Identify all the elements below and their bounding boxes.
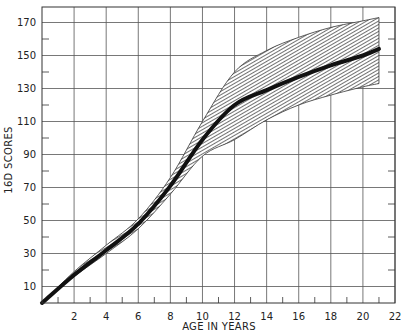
y-tick-label: 170 xyxy=(17,17,36,28)
y-axis-title: 16D SCORES xyxy=(3,126,14,193)
y-tick-label: 30 xyxy=(23,248,36,259)
growth-chart: 246810121416182022 103050709011013015017… xyxy=(0,0,406,335)
x-tick-label: 18 xyxy=(324,311,337,322)
x-tick-label: 4 xyxy=(103,311,109,322)
x-tick-label: 16 xyxy=(292,311,305,322)
x-tick-label: 8 xyxy=(167,311,173,322)
x-axis-title: AGE IN YEARS xyxy=(182,321,256,332)
x-tick-label: 20 xyxy=(357,311,370,322)
x-tick-label: 2 xyxy=(71,311,77,322)
y-tick-label: 10 xyxy=(23,281,36,292)
x-tick-label: 22 xyxy=(389,311,402,322)
y-tick-label: 90 xyxy=(23,149,36,160)
y-tick-label: 70 xyxy=(23,182,36,193)
y-tick-label: 130 xyxy=(17,83,36,94)
y-tick-label: 50 xyxy=(23,215,36,226)
y-tick-label: 110 xyxy=(17,116,36,127)
x-tick-label: 6 xyxy=(135,311,141,322)
x-tick-label: 14 xyxy=(260,311,273,322)
y-tick-label: 150 xyxy=(17,50,36,61)
x-axis-ticks: 246810121416182022 xyxy=(58,297,401,322)
